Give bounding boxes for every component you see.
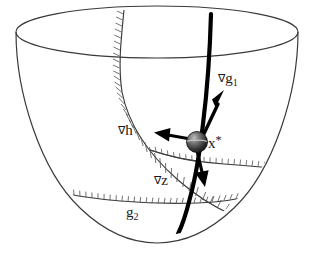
label-grad-z: ∇z bbox=[154, 172, 168, 188]
label-x-asterisk: * bbox=[216, 133, 222, 147]
label-x-star: x* bbox=[208, 134, 222, 151]
x-star-sphere bbox=[187, 132, 208, 153]
bowl-optimization-figure: ∇g1 ∇h x* ∇z g2 bbox=[0, 0, 314, 276]
label-g1-subscript: 1 bbox=[233, 77, 238, 88]
bowl-rim-ellipse bbox=[16, 6, 298, 58]
label-g2-var: g bbox=[126, 204, 134, 220]
grad-z-arrowhead bbox=[195, 170, 209, 187]
label-grad-g1: ∇g1 bbox=[218, 70, 238, 88]
label-h-var: h bbox=[125, 122, 133, 138]
label-x-var: x bbox=[208, 135, 216, 151]
label-g2-subscript: 2 bbox=[134, 211, 139, 222]
bowl-body-outline bbox=[16, 32, 298, 243]
label-g2: g2 bbox=[126, 204, 139, 222]
optimum-point-marker bbox=[187, 132, 208, 153]
grad-h-arrowhead bbox=[154, 128, 171, 142]
constraint-curve-g2 bbox=[46, 185, 258, 204]
label-z-var: z bbox=[161, 172, 168, 188]
label-g1-var: g bbox=[225, 70, 233, 86]
label-grad-h: ∇h bbox=[118, 122, 133, 138]
diagram-canvas bbox=[0, 0, 314, 276]
bowl-outline bbox=[16, 6, 298, 243]
